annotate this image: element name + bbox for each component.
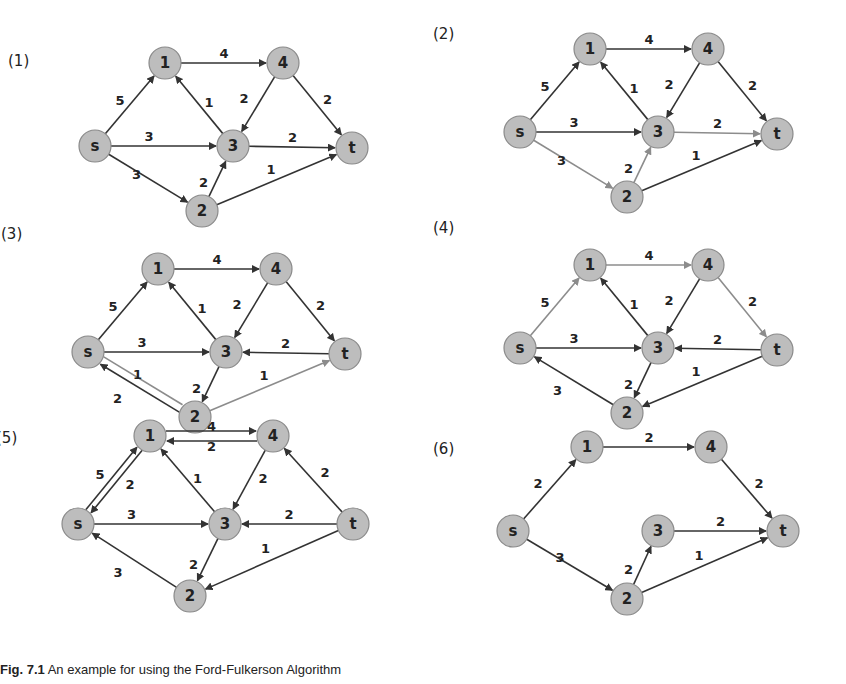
edge-3-to-t: 2: [674, 116, 760, 134]
node-4: 4: [260, 253, 292, 285]
svg-text:1: 1: [160, 54, 170, 72]
node-t: t: [336, 132, 368, 164]
edge-capacity-label: 3: [144, 129, 153, 144]
edge-capacity-label: 2: [664, 293, 673, 308]
edge-s-to-1: 2: [524, 460, 576, 519]
edge-3-to-1: 1: [176, 76, 223, 133]
svg-text:4: 4: [706, 438, 716, 456]
edge-capacity-label: 2: [189, 557, 198, 572]
edge-3-to-2: 2: [192, 366, 219, 401]
svg-text:2: 2: [622, 590, 632, 608]
edge-2-to-3: 2: [624, 546, 651, 584]
svg-text:1: 1: [153, 260, 163, 278]
node-t: t: [337, 508, 369, 540]
node-4: 4: [692, 249, 724, 281]
edge-capacity-label: 1: [259, 368, 268, 383]
node-4: 4: [267, 47, 299, 79]
edge-capacity-label: 1: [691, 148, 700, 163]
svg-text:s: s: [91, 137, 100, 155]
node-s: s: [62, 508, 94, 540]
svg-text:t: t: [349, 515, 356, 533]
edge-3-to-1: 1: [161, 449, 215, 512]
edge-4-to-3: 2: [664, 279, 699, 334]
edge-capacity-label: 3: [569, 115, 578, 130]
node-3: 3: [209, 508, 241, 540]
node-4: 4: [257, 420, 289, 452]
svg-text:4: 4: [703, 256, 713, 274]
node-2: 2: [174, 580, 206, 612]
edge-1-to-4: 2: [603, 430, 694, 448]
node-1: 1: [134, 420, 166, 452]
edge-2-to-3: 2: [624, 147, 651, 182]
edge-capacity-label: 3: [132, 167, 141, 182]
edge-capacity-label: 2: [713, 116, 722, 131]
caption-text: An example for using the Ford-Fulkerson …: [48, 662, 341, 677]
edge-1-to-4: 4: [174, 252, 259, 270]
svg-text:3: 3: [653, 339, 663, 357]
flow-network-graph: 22223211234st: [425, 406, 845, 646]
edge-t-to-3: 2: [242, 507, 337, 525]
edge-capacity-label: 2: [624, 562, 633, 577]
edge-s-to-1: 5: [98, 282, 147, 340]
edge-capacity-label: 2: [320, 465, 329, 480]
svg-text:s: s: [509, 522, 518, 540]
svg-text:3: 3: [653, 123, 663, 141]
node-3: 3: [210, 336, 242, 368]
edge-4-to-t: 2: [718, 277, 766, 336]
svg-text:t: t: [779, 522, 786, 540]
edge-capacity-label: 1: [133, 367, 142, 382]
edge-4-to-3: 2: [239, 77, 274, 132]
edge-capacity-label: 3: [569, 331, 578, 346]
edge-capacity-label: 5: [108, 299, 117, 314]
edge-capacity-label: 2: [288, 130, 297, 145]
node-4: 4: [692, 33, 724, 65]
node-t: t: [329, 338, 361, 370]
edge-3-to-2: 2: [624, 362, 651, 397]
edge-1-to-4: 4: [166, 419, 256, 434]
node-1: 1: [149, 47, 181, 79]
edge-capacity-label: 2: [754, 476, 763, 491]
edge-capacity-label: 2: [239, 91, 248, 106]
node-s: s: [72, 336, 104, 368]
edge-capacity-label: 4: [207, 419, 216, 434]
edge-capacity-label: 2: [624, 377, 633, 392]
edge-capacity-label: 1: [193, 471, 202, 486]
edge-3-to-1: 1: [601, 62, 648, 119]
edge-capacity-label: 1: [691, 364, 700, 379]
node-t: t: [761, 118, 793, 150]
edge-capacity-label: 2: [207, 439, 216, 454]
edge-capacity-label: 2: [232, 297, 241, 312]
edge-3-to-2: 2: [189, 538, 218, 580]
edge-capacity-label: 1: [694, 548, 703, 563]
node-t: t: [761, 334, 793, 366]
edge-capacity-label: 1: [197, 301, 206, 316]
edge-capacity-label: 2: [281, 336, 290, 351]
edge-s-to-3: 3: [104, 335, 209, 353]
edge-capacity-label: 2: [284, 507, 293, 522]
svg-text:3: 3: [228, 137, 238, 155]
edge-4-to-3: 2: [664, 63, 699, 118]
node-3: 3: [217, 130, 249, 162]
edge-3-to-t: 2: [249, 130, 335, 148]
edge-capacity-label: 3: [113, 565, 122, 580]
node-4: 4: [695, 431, 727, 463]
edge-4-to-t: 2: [286, 281, 334, 340]
edge-1-to-4: 4: [606, 32, 691, 50]
edge-s-to-3: 3: [536, 331, 641, 349]
svg-text:t: t: [348, 139, 355, 157]
edge-capacity-label: 2: [748, 78, 757, 93]
edge-2-to-s: 3: [535, 357, 614, 405]
edge-capacity-label: 3: [557, 153, 566, 168]
edge-capacity-label: 4: [219, 46, 228, 61]
edge-capacity-label: 3: [555, 550, 564, 565]
edge-capacity-label: 2: [192, 381, 201, 396]
node-2: 2: [611, 583, 643, 615]
edge-4-to-t: 2: [721, 459, 772, 518]
edge-capacity-label: 2: [713, 332, 722, 347]
node-t: t: [767, 515, 799, 547]
edge-capacity-label: 5: [115, 93, 124, 108]
edge-2-to-3: 2: [199, 161, 226, 196]
edge-3-to-t: 2: [674, 514, 766, 532]
edge-t-to-3: 2: [243, 336, 329, 354]
caption-prefix: Fig. 7.1: [0, 662, 45, 677]
